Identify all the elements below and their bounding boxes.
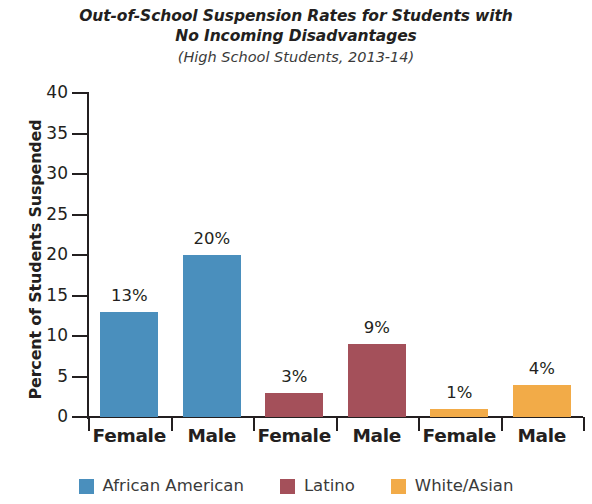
legend-item: White/Asian xyxy=(391,478,514,495)
y-axis-tick-label: 35 xyxy=(24,125,68,142)
y-axis-tick xyxy=(72,376,88,378)
legend-swatch-icon xyxy=(280,479,295,494)
legend-label: Latino xyxy=(304,478,355,495)
bar-value-label: 9% xyxy=(330,320,424,337)
x-axis-tick xyxy=(253,417,255,431)
y-axis-tick-label: 15 xyxy=(24,287,68,304)
legend-item: Latino xyxy=(280,478,355,495)
y-axis-tick xyxy=(72,92,88,94)
chart-plot-area: Percent of Students Suspended 0510152025… xyxy=(0,0,592,504)
y-axis-tick xyxy=(72,335,88,337)
y-axis-tick-label: 20 xyxy=(24,246,68,263)
x-axis-tick xyxy=(583,417,585,431)
y-axis-tick-label: 40 xyxy=(24,84,68,101)
bar xyxy=(183,255,241,417)
bar-value-label: 1% xyxy=(412,385,506,402)
bar-value-label: 13% xyxy=(82,288,176,305)
y-axis-tick-label: 25 xyxy=(24,206,68,223)
legend-swatch-icon xyxy=(79,479,94,494)
legend-item: African American xyxy=(79,478,244,495)
x-axis-tick xyxy=(171,417,173,431)
bar xyxy=(265,393,323,417)
bar-value-label: 3% xyxy=(247,369,341,386)
bar xyxy=(348,344,406,417)
x-axis-tick xyxy=(88,417,90,431)
x-axis-category-label: Male xyxy=(491,425,592,446)
y-axis-tick xyxy=(72,214,88,216)
bar-value-label: 4% xyxy=(495,361,589,378)
y-axis-tick-label: 0 xyxy=(24,408,68,425)
x-axis-tick xyxy=(418,417,420,431)
bar xyxy=(513,385,571,417)
bar xyxy=(100,312,158,417)
y-axis-tick-label: 5 xyxy=(24,368,68,385)
y-axis-tick xyxy=(72,173,88,175)
bar xyxy=(430,409,488,417)
y-axis-tick-label: 30 xyxy=(24,165,68,182)
legend-label: White/Asian xyxy=(415,478,514,495)
plot-canvas: 051015202530354013%20%3%9%1%4% xyxy=(88,93,583,417)
legend-label: African American xyxy=(103,478,244,495)
x-axis-tick xyxy=(336,417,338,431)
chart-legend: African AmericanLatinoWhite/Asian xyxy=(0,478,592,495)
legend-swatch-icon xyxy=(391,479,406,494)
y-axis-tick xyxy=(72,133,88,135)
x-axis-tick xyxy=(501,417,503,431)
y-axis-tick-label: 10 xyxy=(24,327,68,344)
bar-value-label: 20% xyxy=(165,231,259,248)
y-axis-tick xyxy=(72,416,88,418)
y-axis-tick xyxy=(72,254,88,256)
